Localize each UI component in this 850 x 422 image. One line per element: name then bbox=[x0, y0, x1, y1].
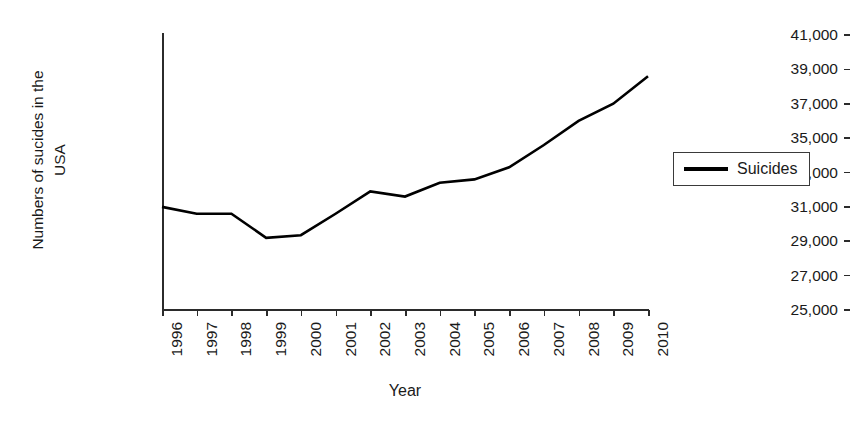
y-axis-tick-mark bbox=[844, 309, 850, 311]
x-axis-tick-mark bbox=[301, 310, 303, 316]
x-axis-tick-label: 2001 bbox=[342, 322, 360, 356]
y-axis-tick-mark bbox=[844, 34, 850, 36]
y-axis-title-line1: Numbers of sucides in the bbox=[29, 70, 46, 249]
x-axis-tick-mark bbox=[197, 310, 199, 316]
legend: Suicides bbox=[673, 152, 810, 186]
y-axis-tick-mark bbox=[844, 240, 850, 242]
x-axis-tick-label: 2004 bbox=[446, 322, 464, 356]
x-axis-tick-label: 2006 bbox=[515, 322, 533, 356]
y-axis-title-text: Numbers of sucides in the USA bbox=[27, 70, 72, 249]
x-axis-tick-label: 2008 bbox=[585, 322, 603, 356]
x-axis-tick-label: 2000 bbox=[307, 322, 325, 356]
series-plot-area bbox=[162, 35, 648, 310]
x-axis-tick-mark bbox=[579, 310, 581, 316]
y-axis-tick-label: 27,000 bbox=[791, 266, 838, 284]
y-axis-tick-mark bbox=[844, 137, 850, 139]
legend-line-swatch bbox=[684, 167, 728, 170]
y-axis-tick-label: 37,000 bbox=[791, 94, 838, 112]
y-axis-tick-mark bbox=[844, 172, 850, 174]
y-axis-tick-label: 35,000 bbox=[791, 129, 838, 147]
x-axis-tick-mark bbox=[405, 310, 407, 316]
x-axis-tick-mark bbox=[231, 310, 233, 316]
x-axis-tick-mark bbox=[648, 310, 650, 316]
y-axis-tick-label: 31,000 bbox=[791, 197, 838, 215]
x-axis-tick-mark bbox=[613, 310, 615, 316]
x-axis-tick-label: 1996 bbox=[168, 322, 186, 356]
series-line-suicides bbox=[162, 76, 648, 238]
y-axis-tick-mark bbox=[844, 206, 850, 208]
x-axis-tick-label: 2002 bbox=[376, 322, 394, 356]
y-axis-tick-label: 41,000 bbox=[791, 26, 838, 44]
x-axis-tick-mark bbox=[162, 310, 164, 316]
x-axis-tick-label: 2009 bbox=[619, 322, 637, 356]
x-axis-tick-label: 2007 bbox=[550, 322, 568, 356]
x-axis-tick-label: 2010 bbox=[654, 322, 672, 356]
y-axis-tick-label: 29,000 bbox=[791, 232, 838, 250]
x-axis-tick-mark bbox=[440, 310, 442, 316]
y-axis-tick-mark bbox=[844, 103, 850, 105]
x-axis-tick-label: 1999 bbox=[272, 322, 290, 356]
chart-figure: Numbers of sucides in the USA 41,00039,0… bbox=[0, 0, 850, 422]
x-axis-tick-label: 2003 bbox=[411, 322, 429, 356]
y-axis-tick-label: 25,000 bbox=[791, 301, 838, 319]
x-axis-tick-mark bbox=[509, 310, 511, 316]
y-axis-tick-label: 39,000 bbox=[791, 60, 838, 78]
x-axis-tick-mark bbox=[544, 310, 546, 316]
y-axis-tick-mark bbox=[844, 69, 850, 71]
x-axis-tick-mark bbox=[266, 310, 268, 316]
legend-label-suicides: Suicides bbox=[737, 160, 797, 178]
x-axis-tick-label: 1998 bbox=[237, 322, 255, 356]
x-axis-tick-label: 2005 bbox=[480, 322, 498, 356]
x-axis-tick-mark bbox=[474, 310, 476, 316]
y-axis-title-line2: USA bbox=[49, 70, 71, 249]
x-axis-tick-mark bbox=[336, 310, 338, 316]
y-axis-title: Numbers of sucides in the USA bbox=[14, 0, 84, 320]
y-axis-tick-mark bbox=[844, 275, 850, 277]
x-axis-title: Year bbox=[0, 382, 810, 400]
x-axis-tick-label: 1997 bbox=[203, 322, 221, 356]
x-axis-tick-mark bbox=[370, 310, 372, 316]
